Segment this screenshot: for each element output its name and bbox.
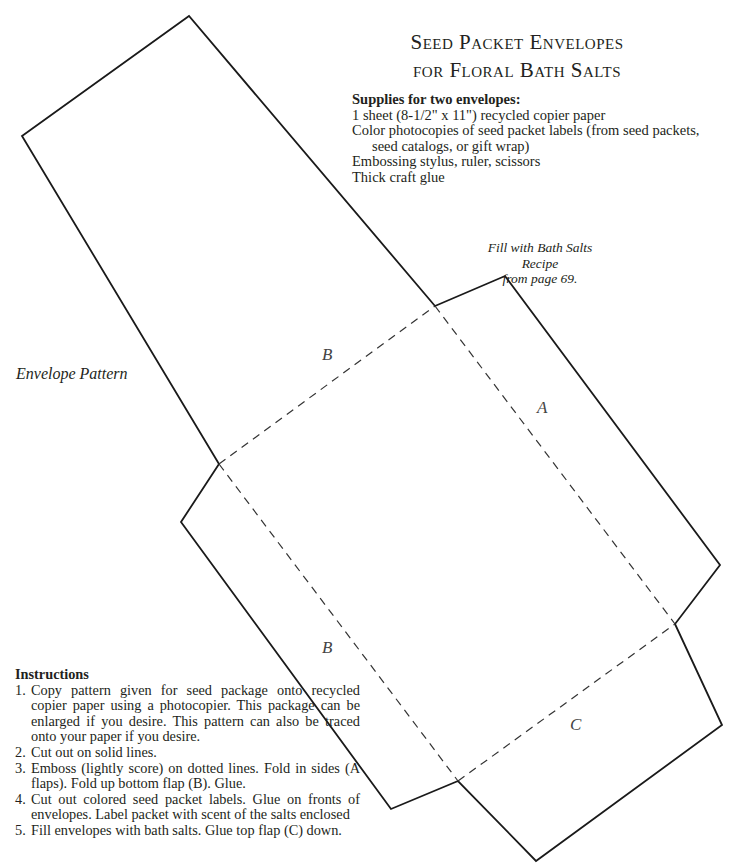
instructions: Instructions 1.Copy pattern given for se…: [15, 667, 360, 839]
envelope-pattern-label: Envelope Pattern: [16, 365, 128, 383]
supply-item: seed catalogs, or gift wrap): [352, 139, 740, 155]
instruction-step: 1.Copy pattern given for seed package on…: [15, 683, 360, 745]
supply-item: Embossing stylus, ruler, scissors: [352, 154, 740, 170]
instructions-list: 1.Copy pattern given for seed package on…: [15, 683, 360, 839]
flap-label-c: C: [570, 715, 581, 735]
fold-line-top: [219, 306, 435, 464]
flap-label-a: A: [537, 398, 547, 418]
recipe-note: Fill with Bath Salts Recipe from page 69…: [470, 240, 610, 287]
flap-label-b-top: B: [322, 345, 332, 365]
fold-line-right: [435, 306, 675, 624]
supply-item: Thick craft glue: [352, 170, 740, 186]
instructions-heading: Instructions: [15, 667, 360, 683]
page-title-line2: for Floral Bath Salts: [392, 58, 642, 82]
instruction-step: 2.Cut out on solid lines.: [15, 745, 360, 761]
fold-line-bottom: [458, 624, 675, 781]
supplies-list: Supplies for two envelopes: 1 sheet (8-1…: [352, 92, 740, 186]
instruction-step: 3.Emboss (lightly score) on dotted lines…: [15, 761, 360, 792]
page-title-line1: Seed Packet Envelopes: [392, 30, 642, 54]
supplies-heading: Supplies for two envelopes:: [352, 92, 740, 108]
instruction-step: 5.Fill envelopes with bath salts. Glue t…: [15, 823, 360, 839]
instruction-step: 4.Cut out colored seed packet labels. Gl…: [15, 792, 360, 823]
recipe-note-line1: Fill with Bath Salts Recipe: [470, 240, 610, 271]
supply-item: 1 sheet (8-1/2" x 11") recycled copier p…: [352, 108, 740, 124]
supply-item: Color photocopies of seed packet labels …: [352, 123, 740, 139]
flap-label-b-bottom: B: [322, 638, 332, 658]
recipe-note-line2: from page 69.: [470, 271, 610, 287]
